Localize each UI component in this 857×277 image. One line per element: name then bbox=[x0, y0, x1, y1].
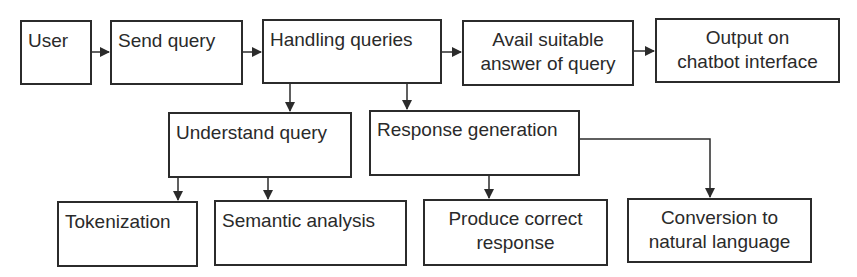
node-label: Tokenization bbox=[59, 203, 196, 233]
node-output-interface: Output on chatbot interface bbox=[655, 18, 840, 83]
edge-response-conversion bbox=[580, 139, 710, 197]
node-handling-queries: Handling queries bbox=[262, 19, 442, 84]
node-label-line1: Avail suitable bbox=[464, 22, 632, 51]
node-response-generation: Response generation bbox=[369, 110, 580, 176]
node-send-query: Send query bbox=[110, 20, 243, 85]
node-label: Response generation bbox=[371, 112, 578, 141]
node-label: User bbox=[22, 22, 90, 52]
node-label: Understand query bbox=[170, 114, 350, 144]
node-label: Semantic analysis bbox=[216, 202, 405, 232]
node-label-line1: Produce correct bbox=[425, 201, 606, 230]
node-user: User bbox=[20, 20, 92, 85]
node-label-line2: chatbot interface bbox=[657, 49, 838, 73]
node-label-line2: response bbox=[425, 230, 606, 254]
flowchart-canvas: User Send query Handling queries Avail s… bbox=[0, 0, 857, 277]
node-label: Send query bbox=[112, 22, 241, 52]
node-conversion-natural-language: Conversion to natural language bbox=[627, 198, 812, 263]
node-avail-answer: Avail suitable answer of query bbox=[462, 20, 634, 86]
node-label-line2: answer of query bbox=[464, 51, 632, 75]
node-produce-response: Produce correct response bbox=[423, 199, 608, 266]
node-tokenization: Tokenization bbox=[57, 201, 198, 267]
node-label-line1: Output on bbox=[657, 20, 838, 49]
node-label-line1: Conversion to bbox=[629, 200, 810, 229]
node-label-line2: natural language bbox=[629, 229, 810, 253]
node-label: Handling queries bbox=[264, 21, 440, 51]
node-understand-query: Understand query bbox=[168, 112, 352, 178]
node-semantic-analysis: Semantic analysis bbox=[214, 200, 407, 266]
